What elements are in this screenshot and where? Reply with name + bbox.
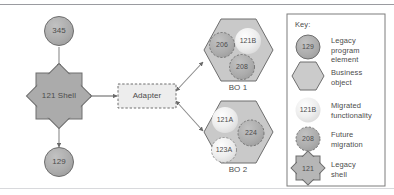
member-121B-label: 121B [240, 37, 257, 46]
key-sample-label-future-migration: 208 [302, 135, 314, 144]
key-text-migrated-functionality: Migrated functionality [331, 101, 372, 120]
diagram-canvas: 345 121 Shell 129 Adapter 206 121B 208 B… [0, 0, 394, 195]
connector-adapter-bo2 [176, 101, 203, 131]
node-bo1-label: BO 1 [229, 83, 248, 93]
node-121-shell-label: 121 Shell [42, 91, 76, 101]
member-224-label: 224 [245, 129, 257, 138]
key-text-legacy-program-element: Legacy program element [331, 36, 360, 65]
key-sample-label-legacy-program-element: 129 [302, 43, 314, 52]
key-text-legacy-shell: Legacy shell [331, 160, 356, 179]
node-129-label: 129 [52, 157, 66, 167]
key-sample-label-migrated-functionality: 121B [300, 106, 317, 115]
key-sample-label-legacy-shell: 121 [302, 165, 314, 174]
member-206-label: 206 [216, 41, 228, 50]
key-heading: Key: [295, 20, 310, 29]
node-345-label: 345 [52, 26, 66, 36]
connector-adapter-bo1 [176, 62, 203, 91]
member-123A-label: 123A [216, 146, 233, 155]
node-adapter-label: Adapter [133, 91, 162, 101]
member-121A-label: 121A [217, 116, 234, 125]
key-text-business-object: Business object [331, 68, 362, 87]
key-text-future-migration: Future migration [331, 130, 363, 149]
member-208-label: 208 [236, 63, 248, 72]
node-bo2-label: BO 2 [229, 165, 248, 175]
